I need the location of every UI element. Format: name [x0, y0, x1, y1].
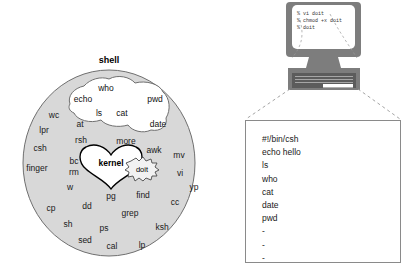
- shell-command-cal: cal: [107, 242, 118, 251]
- terminal-line-3: % doit: [297, 25, 315, 32]
- shell-command-rsh: rsh: [75, 136, 87, 145]
- script-line-3: ls: [262, 159, 301, 172]
- shell-command-wc: wc: [49, 111, 59, 120]
- shell-label: shell: [99, 55, 120, 65]
- script-listing-lines: #!/bin/cshecho hellolswhocatdatepwd---: [262, 133, 301, 265]
- shell-command-ksh: ksh: [155, 223, 168, 232]
- script-listing-box: #!/bin/cshecho hellolswhocatdatepwd---: [245, 120, 401, 263]
- script-line-6: date: [262, 199, 301, 212]
- shell-command-pg: pg: [106, 192, 115, 201]
- script-line-9: -: [262, 239, 301, 252]
- kernel-label: kernel: [98, 158, 123, 168]
- shell-command-cp: cp: [47, 204, 56, 213]
- shell-command-awk: awk: [146, 146, 161, 155]
- shell-command-finger: finger: [26, 164, 47, 173]
- shell-command-vi: vi: [177, 169, 183, 178]
- terminal-line-2: % chmod +x doit: [297, 18, 342, 25]
- shell-command-sed: sed: [78, 236, 92, 245]
- shell-command-sh: sh: [64, 220, 73, 229]
- doit-label: doit: [136, 165, 148, 174]
- blob-command-echo: echo: [74, 95, 92, 104]
- figure-root: shell whoechopwdlscatdate wcatlprrshmore…: [0, 0, 406, 274]
- script-line-7: pwd: [262, 212, 301, 225]
- terminal-line-1: % vi doit: [297, 11, 324, 18]
- shell-command-mv: mv: [173, 151, 184, 160]
- script-line-10: -: [262, 252, 301, 265]
- shell-command-grep: grep: [121, 209, 138, 218]
- shell-command-find: find: [136, 191, 150, 200]
- shell-command-bc: bc: [70, 157, 79, 166]
- shell-command-rm: rm: [69, 168, 79, 177]
- shell-command-lpr: lpr: [39, 126, 48, 135]
- blob-command-pwd: pwd: [147, 95, 163, 104]
- blob-command-who: who: [98, 84, 114, 93]
- script-line-4: who: [262, 173, 301, 186]
- callout-line-right: [358, 89, 400, 119]
- script-line-2: echo hello: [262, 146, 301, 159]
- blob-command-date: date: [150, 120, 167, 129]
- shell-command-at: at: [76, 120, 83, 129]
- callout-line-left: [246, 89, 290, 119]
- script-line-8: -: [262, 225, 301, 238]
- shell-command-dd: dd: [82, 202, 91, 211]
- shell-command-yp: yp: [190, 183, 199, 192]
- shell-command-lp: lp: [139, 241, 146, 250]
- keyboard-spacebar: [323, 84, 353, 88]
- shell-command-more: more: [116, 137, 135, 146]
- script-line-5: cat: [262, 186, 301, 199]
- script-line-1: #!/bin/csh: [262, 133, 301, 146]
- blob-command-ls: ls: [96, 109, 102, 118]
- shell-command-ps: ps: [100, 224, 109, 233]
- shell-command-cc: cc: [171, 198, 180, 207]
- blob-command-cat: cat: [116, 109, 127, 118]
- shell-command-csh: csh: [33, 144, 46, 153]
- shell-command-w: w: [67, 183, 73, 192]
- monitor-neck: [306, 57, 341, 68]
